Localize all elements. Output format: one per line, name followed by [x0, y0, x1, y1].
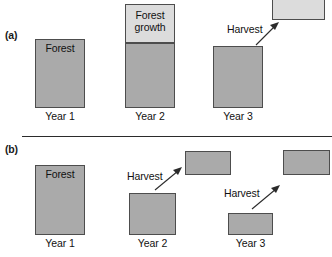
forest-harvest-diagram: (a) Forest Forest growth Harvest Year 1 … [0, 0, 332, 257]
panel-b-xlabel-year3: Year 3 [227, 237, 274, 249]
panel-b-harvest-year3-arrow [0, 0, 332, 257]
panel-b-xlabel-year2: Year 2 [128, 237, 177, 249]
panel-b-xlabel-year1: Year 1 [35, 237, 85, 249]
